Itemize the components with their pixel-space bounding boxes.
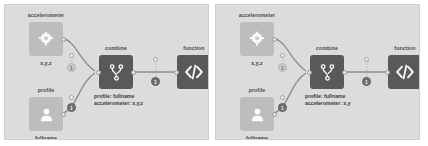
- edge-dot-function[interactable]: [364, 57, 369, 62]
- badge-accelerometer-edge[interactable]: 1: [278, 63, 287, 72]
- node-profile-title: profile: [38, 87, 55, 93]
- port-accelerometer-out[interactable]: [61, 37, 66, 42]
- accelerometer-icon: [247, 29, 267, 49]
- port-combine-in[interactable]: [96, 70, 101, 75]
- code-icon: [184, 62, 204, 82]
- node-profile-title: profile: [249, 87, 266, 93]
- node-accelerometer-sublabel: x,y,z: [251, 60, 262, 66]
- port-combine-out[interactable]: [131, 70, 136, 75]
- node-combine[interactable]: combine: [310, 55, 344, 89]
- node-combine[interactable]: combine: [99, 55, 133, 89]
- node-profile-sublabel: fullname: [35, 135, 57, 140]
- combine-output-line2: accelerometer: x,y: [305, 100, 351, 107]
- graph-panel-right[interactable]: accelerometer x,y,z profile: [215, 4, 420, 140]
- graph-panel-left[interactable]: accelerometer x,y,z profile: [4, 4, 209, 140]
- merge-icon: [107, 63, 126, 82]
- port-profile-out[interactable]: [61, 112, 66, 117]
- node-profile[interactable]: profile fullname: [240, 97, 274, 131]
- edge-dot-profile[interactable]: [280, 95, 285, 100]
- badge-combine-function-edge[interactable]: 1: [362, 77, 371, 86]
- edge-dot-accelerometer[interactable]: [69, 53, 74, 58]
- combine-output-line1: profile: fullname: [94, 93, 134, 100]
- accelerometer-icon: [36, 29, 56, 49]
- node-combine-title: combine: [316, 45, 338, 51]
- node-function-title: function: [183, 45, 204, 51]
- code-icon: [395, 62, 415, 82]
- badge-accelerometer-edge[interactable]: 1: [67, 63, 76, 72]
- person-icon: [248, 105, 267, 124]
- panel-stage: accelerometer x,y,z profile: [0, 0, 428, 146]
- combine-output-line1: profile: fullname: [305, 93, 345, 100]
- edge-dot-profile[interactable]: [69, 95, 74, 100]
- node-accelerometer[interactable]: accelerometer x,y,z: [240, 22, 274, 56]
- badge-profile-edge[interactable]: 1: [278, 103, 287, 112]
- node-function-title: function: [394, 45, 415, 51]
- graph-canvas-right[interactable]: accelerometer x,y,z profile: [216, 5, 419, 139]
- node-profile[interactable]: profile fullname: [29, 97, 63, 131]
- port-combine-in[interactable]: [307, 70, 312, 75]
- node-function[interactable]: function: [177, 55, 209, 89]
- node-function[interactable]: function: [388, 55, 420, 89]
- edge-dot-accelerometer[interactable]: [280, 53, 285, 58]
- node-accelerometer-title: accelerometer: [28, 12, 64, 18]
- port-function-in[interactable]: [385, 70, 390, 75]
- graph-canvas-left[interactable]: accelerometer x,y,z profile: [5, 5, 208, 139]
- combine-output-line2: accelerometer: x,y,z: [94, 100, 143, 107]
- node-accelerometer-sublabel: x,y,z: [40, 60, 51, 66]
- node-accelerometer[interactable]: accelerometer x,y,z: [29, 22, 63, 56]
- node-combine-title: combine: [105, 45, 127, 51]
- port-function-in[interactable]: [174, 70, 179, 75]
- badge-combine-function-edge[interactable]: 1: [151, 77, 160, 86]
- node-accelerometer-title: accelerometer: [239, 12, 275, 18]
- person-icon: [37, 105, 56, 124]
- badge-profile-edge[interactable]: 1: [67, 103, 76, 112]
- merge-icon: [318, 63, 337, 82]
- port-profile-out[interactable]: [272, 112, 277, 117]
- node-profile-sublabel: fullname: [246, 135, 268, 140]
- edge-dot-function[interactable]: [153, 57, 158, 62]
- port-combine-out[interactable]: [342, 70, 347, 75]
- port-accelerometer-out[interactable]: [272, 37, 277, 42]
